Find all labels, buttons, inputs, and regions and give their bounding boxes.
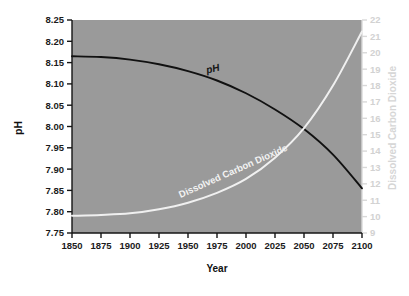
dual-axis-line-chart: 7.757.807.857.907.958.008.058.108.158.20… bbox=[0, 0, 409, 296]
left-axis-tick-label: 8.00 bbox=[46, 121, 65, 132]
right-axis-tick-label: 14 bbox=[370, 145, 381, 156]
right-axis-tick-label: 22 bbox=[370, 14, 381, 25]
x-axis-title: Year bbox=[206, 263, 227, 274]
x-axis-tick-label: 1850 bbox=[61, 240, 82, 251]
left-axis-tick-label: 7.80 bbox=[46, 206, 65, 217]
left-axis-tick-label: 7.75 bbox=[46, 227, 65, 238]
x-axis-tick-label: 1925 bbox=[148, 240, 170, 251]
x-axis-tick-label: 2050 bbox=[293, 240, 314, 251]
chart-figure: 7.757.807.857.907.958.008.058.108.158.20… bbox=[0, 0, 409, 296]
left-axis-tick-label: 8.20 bbox=[46, 36, 65, 47]
x-axis-tick-label: 1875 bbox=[90, 240, 112, 251]
left-axis-tick-label: 8.15 bbox=[46, 57, 65, 68]
x-axis-tick-label: 2075 bbox=[322, 240, 344, 251]
right-axis-tick-label: 13 bbox=[370, 162, 381, 173]
x-axis-tick-label: 1975 bbox=[206, 240, 228, 251]
right-axis-tick-label: 10 bbox=[370, 211, 381, 222]
right-axis-tick-label: 15 bbox=[370, 129, 381, 140]
left-axis-title: pH bbox=[12, 121, 24, 135]
right-axis-tick-label: 21 bbox=[370, 31, 381, 42]
x-axis-tick-label: 2000 bbox=[235, 240, 256, 251]
right-axis-tick-label: 17 bbox=[370, 96, 381, 107]
left-axis-tick-label: 7.90 bbox=[46, 164, 65, 175]
x-axis-tick-label: 1900 bbox=[119, 240, 140, 251]
right-axis-tick-label: 20 bbox=[370, 47, 381, 58]
right-axis-tick-label: 16 bbox=[370, 113, 381, 124]
right-axis-tick-label: 19 bbox=[370, 64, 381, 75]
right-axis-title: Dissolved Carbon Dioxide bbox=[387, 66, 398, 190]
left-axis-tick-label: 7.85 bbox=[46, 185, 65, 196]
right-axis-tick-label: 12 bbox=[370, 178, 381, 189]
left-axis-tick-label: 8.25 bbox=[46, 14, 65, 25]
plot-area-background bbox=[72, 20, 362, 233]
right-axis-tick-label: 18 bbox=[370, 80, 381, 91]
x-axis-tick-label: 2100 bbox=[351, 240, 372, 251]
x-axis-tick-label: 1950 bbox=[177, 240, 198, 251]
left-axis-tick-label: 8.05 bbox=[46, 100, 65, 111]
left-axis-tick-label: 8.10 bbox=[46, 78, 65, 89]
x-axis-tick-label: 2025 bbox=[264, 240, 286, 251]
right-axis-tick-label: 9 bbox=[370, 227, 375, 238]
left-axis-tick-label: 7.95 bbox=[46, 142, 65, 153]
right-axis-tick-label: 11 bbox=[370, 195, 381, 206]
